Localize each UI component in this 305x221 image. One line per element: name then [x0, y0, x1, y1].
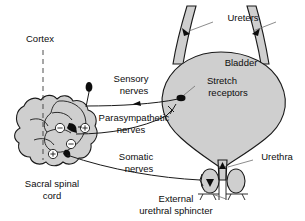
sensory-nerve-arrowhead [133, 101, 141, 106]
label-stretch-receptors-line2: receptors [208, 87, 248, 98]
synapse-lower-inhibitory [66, 139, 75, 148]
label-ureters: Ureters [227, 12, 258, 23]
label-sphincter-line2: urethral sphincter [139, 205, 212, 216]
label-somatic-line2: nerves [125, 163, 154, 174]
label-sacral-line1: Sacral spinal [25, 178, 79, 189]
synapse-lower-excitatory [48, 149, 57, 158]
stretch-receptor-marker [177, 95, 186, 101]
bladder [162, 52, 285, 166]
synapse-upper-excitatory [80, 123, 89, 132]
external-urethral-sphincter-right [227, 169, 245, 193]
label-parasympathetic-line1: Parasympathetic [99, 112, 170, 123]
label-sphincter-line1: External [159, 193, 194, 204]
label-sacral-line2: cord [43, 190, 61, 201]
label-urethra: Urethra [261, 151, 293, 162]
sensory-nerve-cellbody [86, 82, 93, 92]
label-parasympathetic-line2: nerves [117, 124, 146, 135]
ureter-leader-lines [189, 22, 276, 31]
label-bladder: Bladder [225, 57, 258, 68]
micturition-reflex-diagram: Ureters Bladder Stretch receptors Urethr… [0, 0, 305, 221]
synapse-upper-inhibitory [55, 123, 64, 132]
label-stretch-receptors-line1: Stretch [207, 75, 237, 86]
sensory-nerve-stalk [86, 92, 89, 107]
label-sensory-line1: Sensory [114, 73, 149, 84]
label-sensory-line2: nerves [120, 85, 149, 96]
label-somatic-line1: Somatic [119, 151, 154, 162]
label-cortex: Cortex [26, 33, 54, 44]
pelvic-floor-lines [198, 194, 248, 200]
